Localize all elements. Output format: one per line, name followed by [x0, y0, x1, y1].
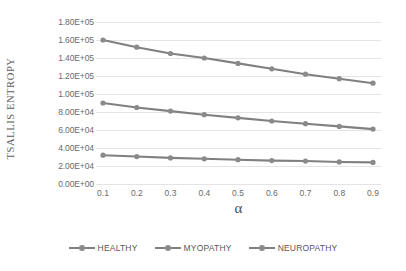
x-tick-label: 0.8 — [333, 188, 345, 198]
legend-marker-icon — [249, 244, 275, 252]
y-tick-label: 1.20E+05 — [58, 71, 94, 81]
y-tick-label: 1.60E+05 — [58, 35, 94, 45]
data-point — [100, 100, 105, 105]
data-point — [269, 118, 274, 123]
y-tick-label: 2.00E+04 — [58, 161, 94, 171]
y-axis-tick-labels: 0.00E+002.00E+044.00E+046.00E+048.00E+04… — [40, 15, 96, 193]
series-layer — [96, 22, 381, 184]
tsallis-entropy-line-chart: TSALLIS ENTROPY 0.00E+002.00E+044.00E+04… — [0, 0, 406, 271]
legend-dot — [259, 245, 265, 251]
y-tick-label: 8.00E+04 — [58, 107, 94, 117]
x-tick-label: 0.9 — [367, 188, 379, 198]
data-point — [168, 155, 173, 160]
series-healthy — [100, 153, 375, 165]
data-point — [134, 45, 139, 50]
legend-marker-icon — [69, 244, 95, 252]
data-point — [235, 61, 240, 66]
data-point — [303, 72, 308, 77]
x-tick-label: 0.6 — [266, 188, 278, 198]
y-tick-label: 1.00E+05 — [58, 89, 94, 99]
x-tick-label: 0.3 — [165, 188, 177, 198]
data-point — [337, 76, 342, 81]
data-point — [269, 158, 274, 163]
data-point — [100, 37, 105, 42]
gridline — [96, 184, 381, 185]
data-point — [235, 115, 240, 120]
x-tick-label: 0.2 — [131, 188, 143, 198]
data-point — [370, 160, 375, 165]
x-tick-label: 0.1 — [97, 188, 109, 198]
data-point — [337, 159, 342, 164]
data-point — [202, 112, 207, 117]
y-tick-label: 1.40E+05 — [58, 53, 94, 63]
y-tick-label: 0.00E+00 — [58, 179, 94, 189]
data-point — [337, 124, 342, 129]
y-tick-label: 6.00E+04 — [58, 125, 94, 135]
data-point — [370, 81, 375, 86]
data-point — [134, 154, 139, 159]
legend-label: MYOPATHY — [184, 243, 232, 253]
data-point — [370, 127, 375, 132]
x-tick-label: 0.5 — [232, 188, 244, 198]
data-point — [269, 66, 274, 71]
data-point — [202, 156, 207, 161]
legend-label: NEUROPATHY — [278, 243, 338, 253]
series-myopathy — [100, 100, 375, 131]
legend-marker-icon — [155, 244, 181, 252]
y-axis-title: TSALLIS ENTROPY — [0, 38, 20, 178]
data-point — [168, 109, 173, 114]
chart-legend: HEALTHYMYOPATHYNEUROPATHY — [0, 240, 406, 256]
data-point — [303, 158, 308, 163]
data-point — [303, 121, 308, 126]
legend-dot — [79, 245, 85, 251]
data-point — [202, 55, 207, 60]
x-tick-label: 0.7 — [300, 188, 312, 198]
series-neuropathy — [100, 37, 375, 85]
legend-item-neuropathy[interactable]: NEUROPATHY — [249, 243, 338, 253]
y-tick-label: 4.00E+04 — [58, 143, 94, 153]
x-tick-label: 0.4 — [198, 188, 210, 198]
legend-item-myopathy[interactable]: MYOPATHY — [155, 243, 232, 253]
legend-dot — [165, 245, 171, 251]
data-point — [100, 153, 105, 158]
data-point — [235, 157, 240, 162]
plot-area — [96, 22, 381, 184]
legend-label: HEALTHY — [98, 243, 138, 253]
data-point — [168, 51, 173, 56]
y-axis-title-label: TSALLIS ENTROPY — [5, 57, 16, 159]
y-tick-label: 1.80E+05 — [58, 17, 94, 27]
legend-item-healthy[interactable]: HEALTHY — [69, 243, 138, 253]
x-axis-title: α — [96, 200, 381, 217]
data-point — [134, 105, 139, 110]
